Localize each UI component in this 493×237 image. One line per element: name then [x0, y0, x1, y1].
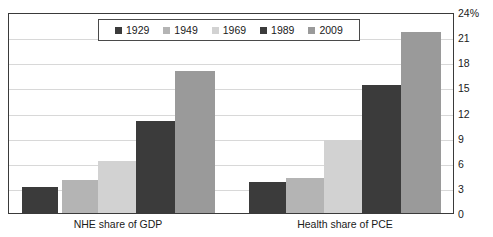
bar-pce-2009 — [401, 32, 441, 213]
category-label-pce: Health share of PCE — [275, 219, 415, 231]
y-tick-18: 18 — [458, 58, 470, 69]
bar-pce-1949 — [286, 178, 324, 213]
y-tick-12: 12 — [458, 109, 470, 120]
legend-item-2009: 2009 — [308, 25, 342, 36]
bar-nhe-1949 — [62, 180, 98, 213]
legend-swatch-1949-icon — [163, 27, 170, 34]
legend-swatch-1969-icon — [212, 27, 219, 34]
bar-nhe-1969 — [98, 161, 136, 213]
y-tick-21: 21 — [458, 33, 470, 44]
y-axis: 24% 21 18 15 12 9 6 3 0 — [458, 0, 493, 237]
bar-pce-1989 — [362, 85, 401, 213]
bar-pce-1969 — [324, 140, 362, 213]
legend-item-1929: 1929 — [115, 25, 149, 36]
bar-nhe-2009 — [175, 71, 215, 213]
legend-label-1949: 1949 — [174, 25, 197, 36]
y-tick-24: 24% — [458, 8, 479, 19]
legend-item-1949: 1949 — [163, 25, 197, 36]
legend: 1929 1949 1969 1989 2009 — [98, 19, 360, 41]
legend-item-1969: 1969 — [212, 25, 246, 36]
bars-layer — [9, 14, 453, 213]
legend-label-1989: 1989 — [271, 25, 294, 36]
legend-swatch-1989-icon — [260, 27, 267, 34]
bar-nhe-1929 — [22, 187, 58, 213]
plot-area — [8, 13, 454, 214]
y-tick-15: 15 — [458, 83, 470, 94]
legend-label-2009: 2009 — [319, 25, 342, 36]
category-labels: NHE share of GDP Health share of PCE — [8, 219, 454, 235]
bar-pce-1929 — [249, 182, 286, 213]
category-label-nhe: NHE share of GDP — [48, 219, 188, 231]
legend-swatch-2009-icon — [308, 27, 315, 34]
y-tick-3: 3 — [458, 184, 464, 195]
legend-swatch-1929-icon — [115, 27, 122, 34]
legend-label-1969: 1969 — [223, 25, 246, 36]
y-tick-6: 6 — [458, 159, 464, 170]
y-tick-9: 9 — [458, 134, 464, 145]
legend-item-1989: 1989 — [260, 25, 294, 36]
grouped-bar-chart: 1929 1949 1969 1989 2009 24% 21 18 15 12… — [0, 0, 493, 237]
bar-nhe-1989 — [136, 121, 175, 213]
y-tick-0: 0 — [458, 209, 464, 220]
legend-label-1929: 1929 — [126, 25, 149, 36]
